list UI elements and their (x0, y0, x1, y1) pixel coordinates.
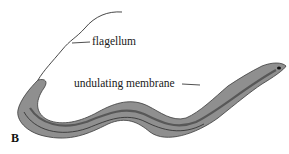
trypanosome-figure: flagellum undulating membrane B (0, 0, 289, 154)
kinetoplast (277, 66, 281, 69)
flagellum-leader (72, 42, 90, 43)
flagellum-label: flagellum (92, 36, 136, 48)
cell-body (18, 63, 286, 138)
panel-letter: B (11, 131, 19, 146)
undulating-membrane-label: undulating membrane (74, 78, 175, 90)
membrane-leader (182, 84, 200, 85)
